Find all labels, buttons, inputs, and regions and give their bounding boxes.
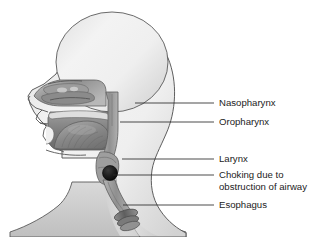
turbinate-highlight-1	[57, 87, 67, 92]
oral-cavity	[46, 111, 113, 156]
airway-obstruction-bolus	[103, 166, 118, 181]
label-larynx-line-1: Larynx	[219, 153, 248, 164]
label-esophagus: Esophagus	[219, 199, 267, 210]
tongue-highlight	[68, 125, 96, 135]
anatomy-figure: NasopharynxOropharynxLarynxChoking due t…	[0, 0, 336, 237]
label-nasopharynx: Nasopharynx	[219, 97, 276, 108]
label-oropharynx: Oropharynx	[219, 116, 269, 127]
anatomy-diagram-svg: NasopharynxOropharynxLarynxChoking due t…	[0, 0, 336, 237]
label-choking: Choking due toobstruction of airway	[219, 169, 307, 192]
label-choking-line-1: Choking due to	[219, 169, 284, 180]
middle-turbinate	[42, 92, 95, 105]
label-nasopharynx-line-1: Nasopharynx	[219, 97, 276, 108]
label-esophagus-line-1: Esophagus	[219, 199, 267, 210]
label-choking-line-2: obstruction of airway	[219, 181, 307, 192]
labels-group: NasopharynxOropharynxLarynxChoking due t…	[219, 97, 307, 210]
turbinate-highlight-2	[70, 87, 78, 91]
label-oropharynx-line-1: Oropharynx	[219, 116, 269, 127]
label-larynx: Larynx	[219, 153, 248, 164]
